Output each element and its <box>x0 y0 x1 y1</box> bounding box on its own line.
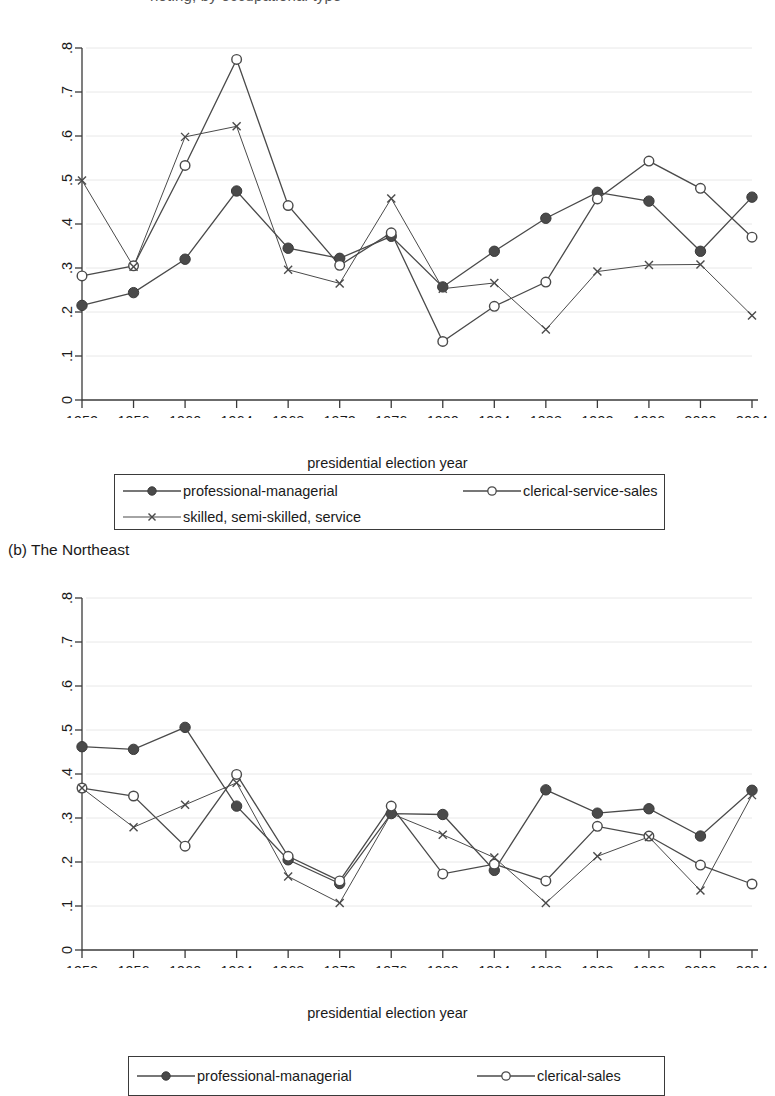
legend-a-entry-1: clerical-service-sales <box>461 484 658 499</box>
svg-text:.7: .7 <box>59 636 75 648</box>
cropped-text: noting, by occupational type <box>150 0 342 4</box>
svg-text:1964: 1964 <box>220 413 252 418</box>
cropped-text-fragment: noting, by occupational type <box>0 0 775 12</box>
svg-text:1972: 1972 <box>324 413 356 418</box>
x-axis-title-a: presidential election year <box>0 455 775 471</box>
svg-text:1968: 1968 <box>272 963 304 968</box>
chart-figure-a: 0.1.2.3.4.5.6.7.819521956196019641968197… <box>0 18 775 418</box>
svg-text:.3: .3 <box>59 262 75 274</box>
legend-b-entry-1: clerical-sales <box>475 1069 621 1084</box>
svg-text:1976: 1976 <box>375 413 407 418</box>
svg-text:.1: .1 <box>59 900 75 912</box>
svg-text:1992: 1992 <box>581 413 613 418</box>
svg-text:1984: 1984 <box>478 963 510 968</box>
svg-text:2004: 2004 <box>736 963 768 968</box>
svg-text:.4: .4 <box>59 218 75 230</box>
svg-text:.3: .3 <box>59 812 75 824</box>
svg-text:0: 0 <box>59 396 75 404</box>
open-circle-icon <box>475 1069 537 1083</box>
svg-text:1960: 1960 <box>169 963 201 968</box>
legend-a-label-1: clerical-service-sales <box>523 484 658 499</box>
svg-text:.5: .5 <box>59 724 75 736</box>
svg-text:1956: 1956 <box>117 413 149 418</box>
chart-figure-b: 0.1.2.3.4.5.6.7.819521956196019641968197… <box>0 568 775 968</box>
svg-text:2000: 2000 <box>684 413 716 418</box>
svg-text:1952: 1952 <box>66 963 98 968</box>
legend-b-label-0: professional-managerial <box>197 1069 352 1084</box>
svg-text:1976: 1976 <box>375 963 407 968</box>
svg-text:1952: 1952 <box>66 413 98 418</box>
line-chart-a: 0.1.2.3.4.5.6.7.819521956196019641968197… <box>0 18 775 418</box>
svg-text:1956: 1956 <box>117 963 149 968</box>
svg-text:.8: .8 <box>59 42 75 54</box>
line-chart-b: 0.1.2.3.4.5.6.7.819521956196019641968197… <box>0 568 775 968</box>
svg-text:.2: .2 <box>59 856 75 868</box>
svg-text:1992: 1992 <box>581 963 613 968</box>
svg-text:1968: 1968 <box>272 413 304 418</box>
svg-text:.6: .6 <box>59 680 75 692</box>
legend-b-label-1: clerical-sales <box>537 1069 621 1084</box>
filled-circle-icon <box>135 1069 197 1083</box>
figure-page: noting, by occupational type 0.1.2.3.4.5… <box>0 0 775 1096</box>
svg-text:1980: 1980 <box>427 413 459 418</box>
svg-text:.5: .5 <box>59 174 75 186</box>
plot-area-a: 0.1.2.3.4.5.6.7.819521956196019641968197… <box>0 18 775 418</box>
svg-text:1980: 1980 <box>427 963 459 968</box>
legend-a-label-2: skilled, semi-skilled, service <box>183 510 361 525</box>
svg-text:1996: 1996 <box>633 413 665 418</box>
svg-text:.7: .7 <box>59 86 75 98</box>
cross-x-icon <box>121 510 183 524</box>
svg-text:1984: 1984 <box>478 413 510 418</box>
svg-text:0: 0 <box>59 946 75 954</box>
svg-text:2000: 2000 <box>684 963 716 968</box>
svg-text:.8: .8 <box>59 592 75 604</box>
x-axis-title-b: presidential election year <box>0 1005 775 1021</box>
svg-text:.2: .2 <box>59 306 75 318</box>
legend-a-entry-2: skilled, semi-skilled, service <box>121 510 461 525</box>
open-circle-icon <box>461 484 523 498</box>
filled-circle-icon <box>121 484 183 498</box>
svg-text:1988: 1988 <box>530 413 562 418</box>
svg-text:1988: 1988 <box>530 963 562 968</box>
legend-b: professional-managerial clerical-sales <box>128 1056 665 1096</box>
caption-figure-b: (b) The Northeast <box>8 541 129 559</box>
plot-area-b: 0.1.2.3.4.5.6.7.819521956196019641968197… <box>0 568 775 968</box>
svg-text:1960: 1960 <box>169 413 201 418</box>
legend-a-label-0: professional-managerial <box>183 484 338 499</box>
svg-text:1972: 1972 <box>324 963 356 968</box>
legend-a-entry-0: professional-managerial <box>121 484 461 499</box>
svg-text:.6: .6 <box>59 130 75 142</box>
legend-a: professional-managerial clerical-service… <box>114 474 665 530</box>
svg-text:1964: 1964 <box>220 963 252 968</box>
svg-text:.4: .4 <box>59 768 75 780</box>
legend-b-entry-0: professional-managerial <box>135 1069 475 1084</box>
svg-text:2004: 2004 <box>736 413 768 418</box>
svg-text:1996: 1996 <box>633 963 665 968</box>
svg-text:.1: .1 <box>59 350 75 362</box>
